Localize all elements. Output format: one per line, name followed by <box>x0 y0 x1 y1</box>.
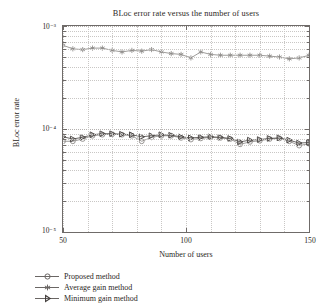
legend: Proposed method Average gain method <box>34 271 138 304</box>
y-tick-label: 10⁻⁵ <box>26 226 56 235</box>
legend-marker-asterisk-icon <box>34 282 60 293</box>
legend-label: Average gain method <box>60 283 132 292</box>
legend-item: Average gain method <box>34 282 138 293</box>
x-tick-label: 50 <box>48 236 78 245</box>
x-axis-title: Number of users <box>62 250 310 259</box>
y-axis-title: BLoc error rate <box>12 68 21 178</box>
legend-label: Proposed method <box>60 272 120 281</box>
y-tick-label: 10⁻⁴ <box>26 124 56 133</box>
y-tick-label-layer: 10⁻³ 10⁻⁴ 10⁻⁵ 50 100 150 <box>0 0 332 307</box>
legend-item: Minimum gain method <box>34 293 138 304</box>
legend-label: Minimum gain method <box>60 294 138 303</box>
legend-marker-triangle-right-icon <box>34 293 60 304</box>
legend-item: Proposed method <box>34 271 138 282</box>
x-tick-label: 150 <box>295 236 325 245</box>
y-tick-label: 10⁻³ <box>26 22 56 31</box>
x-tick-label: 100 <box>171 236 201 245</box>
legend-marker-circle-icon <box>34 271 60 282</box>
figure: BLoc error rate versus the number of use… <box>0 0 332 307</box>
